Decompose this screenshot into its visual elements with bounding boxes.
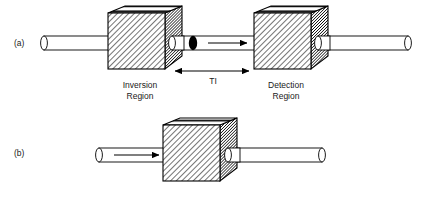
ti-label: TI bbox=[209, 76, 217, 86]
detection-region-caption: Detection Region bbox=[268, 80, 304, 101]
inversion-region-label-line2: Region bbox=[127, 91, 154, 101]
inflow-tube-a bbox=[41, 36, 116, 50]
outflow-tube-a bbox=[318, 36, 411, 50]
figure-canvas: (a) bbox=[0, 0, 422, 200]
inversion-region-label-line1: Inversion bbox=[123, 80, 158, 90]
labeled-bolus bbox=[189, 36, 197, 50]
tube-stub-b bbox=[225, 148, 240, 162]
panel-a-label: (a) bbox=[14, 38, 25, 48]
inversion-region-caption: Inversion Region bbox=[123, 80, 158, 101]
panel-b-label: (b) bbox=[14, 148, 25, 158]
tube-stub-detection bbox=[315, 36, 330, 50]
tube-stub-inversion bbox=[169, 36, 184, 50]
detection-region-label-line1: Detection bbox=[268, 80, 304, 90]
outflow-tube-b bbox=[228, 148, 325, 162]
detection-region-label-line2: Region bbox=[273, 91, 300, 101]
